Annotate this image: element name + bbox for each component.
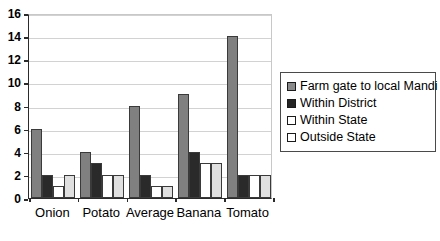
bar: [238, 175, 249, 198]
bar: [140, 175, 151, 198]
bar: [189, 152, 200, 198]
legend-item-label: Within State: [300, 114, 367, 127]
legend-item-label: Outside State: [300, 131, 376, 144]
bar: [129, 106, 140, 199]
bar: [162, 186, 173, 198]
y-axis-label: 6: [1, 124, 21, 136]
bar-group: [29, 15, 78, 198]
bar-group: [78, 15, 127, 198]
x-axis-tick: [78, 198, 80, 202]
y-axis-label: 10: [1, 77, 21, 89]
bar-group: [224, 15, 273, 198]
x-axis-label: Potato: [77, 206, 126, 219]
y-axis-label: 2: [1, 170, 21, 182]
bar-group: [127, 15, 176, 198]
y-axis-tick: [24, 37, 28, 39]
x-axis-tick: [175, 198, 177, 202]
bar: [151, 186, 162, 198]
legend-swatch-icon: [287, 133, 296, 142]
legend-swatch-icon: [287, 99, 296, 108]
plot-area: [28, 14, 272, 199]
bar-chart: 0246810121416 OnionPotatoAverageBananaTo…: [0, 0, 440, 241]
y-axis-tick: [24, 176, 28, 178]
x-axis-label: Onion: [28, 206, 77, 219]
y-axis-tick: [24, 153, 28, 155]
y-axis-label: 8: [1, 101, 21, 113]
x-axis-tick: [127, 198, 129, 202]
x-axis-tick: [273, 198, 275, 202]
legend-item[interactable]: Farm gate to local Mandi: [287, 78, 430, 95]
y-axis-tick: [24, 14, 28, 16]
bar: [249, 175, 260, 198]
bar-group: [175, 15, 224, 198]
legend-item[interactable]: Within District: [287, 95, 430, 112]
legend-item-label: Farm gate to local Mandi: [300, 80, 438, 93]
legend-item-label: Within District: [300, 97, 376, 110]
bar: [102, 175, 113, 198]
bar: [64, 175, 75, 198]
bar: [53, 186, 64, 198]
bar: [42, 175, 53, 198]
y-axis-label: 0: [1, 193, 21, 205]
y-axis-label: 12: [1, 54, 21, 66]
x-axis-label: Average: [126, 206, 175, 219]
y-axis-tick: [24, 130, 28, 132]
bars-layer: [29, 15, 271, 198]
y-axis-label: 16: [1, 8, 21, 20]
x-axis-tick: [224, 198, 226, 202]
x-axis-label: Tomato: [223, 206, 272, 219]
bar: [227, 36, 238, 198]
x-axis-label: Banana: [174, 206, 223, 219]
chart-legend: Farm gate to local MandiWithin DistrictW…: [280, 72, 436, 152]
legend-swatch-icon: [287, 82, 296, 91]
y-axis-tick: [24, 83, 28, 85]
y-axis-label: 4: [1, 147, 21, 159]
legend-item[interactable]: Within State: [287, 112, 430, 129]
bar: [31, 129, 42, 198]
bar: [260, 175, 271, 198]
y-axis-tick: [24, 199, 28, 201]
bar: [80, 152, 91, 198]
legend-item[interactable]: Outside State: [287, 129, 430, 146]
bar: [200, 163, 211, 198]
y-axis-tick: [24, 107, 28, 109]
y-axis-tick: [24, 60, 28, 62]
x-axis-tick: [29, 198, 31, 202]
bar: [91, 163, 102, 198]
bar: [113, 175, 124, 198]
y-axis-label: 14: [1, 31, 21, 43]
bar: [211, 163, 222, 198]
legend-swatch-icon: [287, 116, 296, 125]
bar: [178, 94, 189, 198]
